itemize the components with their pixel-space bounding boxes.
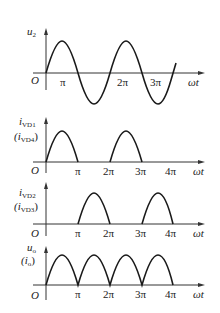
- panel-uo: uo (io) O π 2π 3π 4π ωt: [21, 241, 205, 301]
- x-axis-arrow-icon: [198, 283, 205, 287]
- tick-pi: π: [60, 76, 66, 88]
- origin-label: O: [31, 164, 39, 176]
- panel-ivd1: iVD1 (iVD4) O π 2π 3π 4π ωt: [14, 115, 205, 177]
- y-axis-arrow-icon: [44, 117, 48, 124]
- tick-3pi: 3π: [135, 227, 147, 239]
- origin-label: O: [31, 74, 39, 86]
- tick-3pi: 3π: [135, 288, 147, 300]
- x-axis-arrow-icon: [198, 160, 205, 164]
- tick-3pi: 3π: [135, 165, 147, 177]
- tick-2pi: 2π: [103, 165, 115, 177]
- tick-pi: π: [75, 288, 81, 300]
- tick-pi: π: [75, 165, 81, 177]
- x-axis-arrow-icon: [198, 222, 205, 226]
- y-axis-arrow-icon: [44, 28, 48, 35]
- half-wave-pulses: [78, 193, 173, 224]
- tick-2pi: 2π: [117, 76, 129, 88]
- y-label-io: (io): [21, 254, 35, 268]
- y-label-ivd2: iVD2: [19, 186, 36, 200]
- y-label-ivd1: iVD1: [19, 115, 36, 129]
- tick-4pi: 4π: [165, 165, 177, 177]
- x-label-omega-t: ωt: [193, 165, 205, 177]
- y-label-ivd4: (iVD4): [14, 130, 38, 144]
- tick-4pi: 4π: [165, 288, 177, 300]
- y-label-uo: uo: [27, 241, 37, 255]
- x-axis-arrow-icon: [198, 71, 205, 75]
- panel-u2: u2 O π 2π 3π ωt: [27, 25, 205, 104]
- full-wave-rectified: [46, 255, 173, 285]
- tick-2pi: 2π: [103, 288, 115, 300]
- panel-ivd2: iVD2 (iVD3) O π 2π 3π 4π ωt: [14, 182, 205, 239]
- half-wave-pulses: [46, 131, 142, 162]
- rectifier-waveform-diagram: u2 O π 2π 3π ωt iVD1 (iVD4) O π 2π 3π 4π…: [0, 0, 220, 313]
- tick-2pi: 2π: [103, 227, 115, 239]
- y-axis-arrow-icon: [44, 246, 48, 253]
- tick-3pi: 3π: [150, 76, 162, 88]
- y-label-ivd3: (iVD3): [14, 200, 38, 214]
- tick-pi: π: [75, 227, 81, 239]
- x-label-omega-t: ωt: [193, 288, 205, 300]
- x-label-omega-t: ωt: [193, 227, 205, 239]
- tick-4pi: 4π: [165, 227, 177, 239]
- y-label-u2: u2: [27, 25, 37, 39]
- origin-label: O: [31, 227, 39, 239]
- y-axis-arrow-icon: [44, 182, 48, 189]
- origin-label: O: [31, 289, 39, 301]
- x-label-omega-t: ωt: [188, 76, 200, 88]
